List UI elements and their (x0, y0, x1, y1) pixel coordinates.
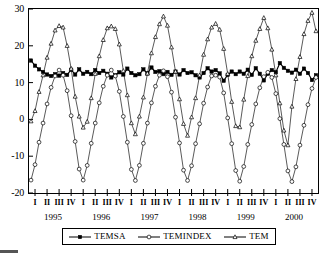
y-tick-label: 30 (0, 4, 24, 14)
legend-label: TEMINDEX (163, 232, 212, 241)
page-edge-artifact (0, 250, 18, 253)
y-tick-label: 10 (0, 78, 24, 88)
y-tick-label: 20 (0, 41, 24, 51)
legend-item-temsa: TEMSA (69, 232, 126, 242)
x-year-label: 1999 (226, 213, 266, 222)
x-year-label: 1996 (81, 213, 121, 222)
legend-item-temindex: TEMINDEX (138, 232, 212, 242)
x-year-label: 1998 (178, 213, 218, 222)
open-triangle-icon (224, 232, 246, 242)
series-temindex (29, 68, 318, 183)
legend-label: TEM (249, 232, 269, 241)
x-year-label: 1997 (129, 213, 169, 222)
chart-container: 3020100-10-20 IIIIIIIVIIIIIIIVIIIIIIIVII… (0, 0, 335, 255)
series-tem (29, 10, 318, 146)
x-quarter-label: IV (305, 199, 319, 207)
x-year-label: 1995 (33, 213, 73, 222)
x-year-label: 2000 (274, 213, 314, 222)
open-circle-icon (138, 232, 160, 242)
y-tick-label: 0 (0, 114, 24, 124)
legend-item-tem: TEM (224, 232, 269, 242)
chart-legend: TEMSATEMINDEXTEM (62, 228, 276, 245)
y-tick-label: -10 (0, 151, 24, 161)
y-tick-label: -20 (0, 188, 24, 198)
legend-label: TEMSA (94, 232, 126, 241)
filled-square-icon (69, 232, 91, 242)
